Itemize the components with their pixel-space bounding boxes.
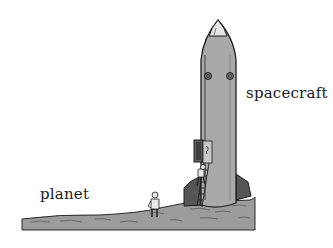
planet-label: planet xyxy=(40,185,89,203)
rocket-hatch xyxy=(194,140,212,163)
spacecraft-label: spacecraft xyxy=(246,84,328,102)
porthole-right xyxy=(227,73,234,80)
illustration xyxy=(0,0,333,248)
porthole-left xyxy=(205,73,212,80)
